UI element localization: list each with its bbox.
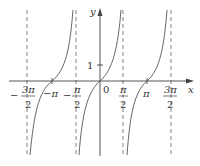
y-axis-arrow-icon [98, 8, 103, 16]
x-axis-label: x [188, 84, 194, 95]
svg-text:3π: 3π [22, 84, 35, 95]
x-tick-label-neg-pi: −π [43, 88, 58, 99]
svg-text:2: 2 [25, 99, 31, 110]
curve-branch-left [30, 10, 73, 155]
x-tick-label-3pi-2: 3π 2 [163, 84, 177, 110]
svg-text:2: 2 [74, 99, 80, 110]
x-tick-label-pi: π [142, 88, 150, 99]
x-tick-label-pi-2: π 2 [119, 84, 128, 110]
y-tick-label-1: 1 [87, 60, 93, 71]
svg-text:−: − [10, 90, 18, 101]
asymptotes [27, 10, 171, 156]
svg-text:π: π [73, 84, 81, 95]
x-axis-arrow-icon [186, 79, 194, 84]
x-tick-label-neg-3pi-2: − 3π 2 [10, 84, 35, 110]
axes [9, 12, 190, 156]
y-axis-label: y [89, 6, 96, 17]
svg-text:2: 2 [167, 99, 173, 110]
tan-curves [30, 10, 167, 155]
tangent-graph: y x 1 0 − 3π 2 −π − π 2 π 2 π 3π 2 [0, 0, 200, 166]
svg-text:π: π [119, 84, 127, 95]
origin-label: 0 [103, 84, 109, 95]
svg-text:2: 2 [120, 99, 126, 110]
svg-text:3π: 3π [164, 84, 177, 95]
x-tick-label-neg-pi-2: − π 2 [63, 84, 81, 110]
svg-text:−: − [63, 90, 71, 101]
